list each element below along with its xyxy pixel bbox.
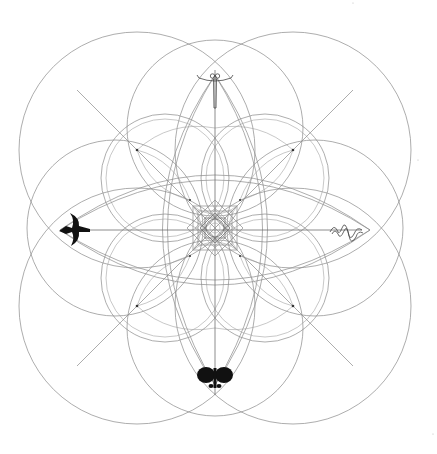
geometry-diagram xyxy=(0,0,437,454)
